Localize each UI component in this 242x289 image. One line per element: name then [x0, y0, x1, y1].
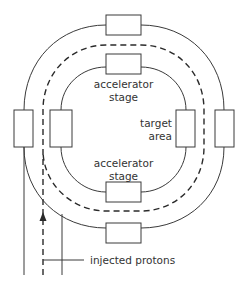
bottom-stage-label-1: accelerator: [94, 157, 154, 169]
right-inner-box: [176, 110, 195, 147]
left-inner-box: [50, 110, 72, 147]
left-outer-box: [14, 110, 33, 147]
top-stage-label-2: stage: [109, 91, 138, 103]
right-outer-box: [215, 110, 234, 147]
top-stage-label-1: accelerator: [94, 78, 154, 90]
target-label-2: area: [149, 130, 172, 142]
injected-protons-label: injected protons: [90, 254, 175, 266]
target-label-1: target: [140, 117, 172, 129]
top-outer-box: [106, 15, 141, 35]
outer-ring-bottom-right-arc: [141, 147, 224, 228]
top-inner-box: [106, 54, 141, 74]
bottom-inner-box: [106, 182, 141, 202]
bottom-outer-box: [106, 223, 141, 243]
up-arrow-icon: [40, 212, 47, 221]
synchrotron-diagram: accelerator stage target area accelerato…: [0, 0, 242, 289]
bottom-stage-label-2: stage: [109, 170, 138, 182]
